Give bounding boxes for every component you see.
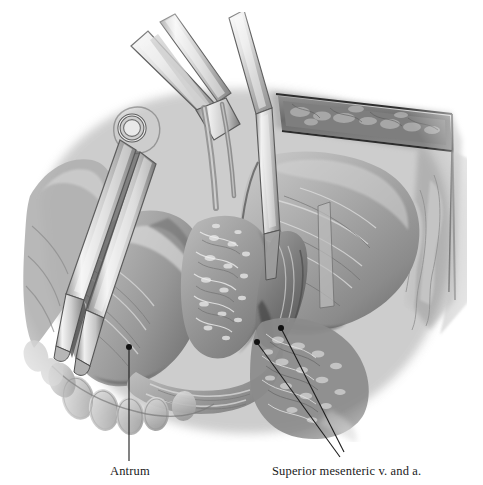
anatomical-illustration <box>0 0 483 455</box>
label-superior-mesenteric-vessels: Superior mesenteric v. and a. <box>272 464 421 479</box>
atlas-plate-page: g g p R <box>0 0 483 485</box>
leader-dot-superior-mesenteric-vein <box>254 339 260 345</box>
label-antrum: Antrum <box>110 464 150 479</box>
leader-dot-superior-mesenteric-artery <box>278 325 284 331</box>
leader-dot-antrum <box>126 344 132 350</box>
